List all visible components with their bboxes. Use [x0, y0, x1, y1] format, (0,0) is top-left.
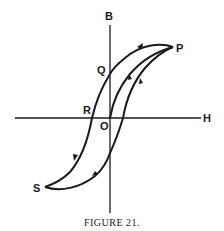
point-r-label: R	[83, 104, 91, 116]
arrow-icon	[137, 43, 143, 49]
arrow-icon	[139, 78, 143, 84]
point-q-label: Q	[97, 64, 106, 76]
point-p-label: P	[176, 42, 183, 54]
descending-branch	[45, 45, 173, 187]
point-s-label: S	[33, 182, 40, 194]
figure-caption: FIGURE 21.	[84, 217, 140, 228]
point-o-label: O	[100, 120, 109, 132]
hysteresis-diagram: B H P Q R O S FIGURE 21.	[0, 0, 224, 231]
h-axis-label: H	[203, 112, 211, 124]
b-axis-label: B	[105, 10, 113, 22]
